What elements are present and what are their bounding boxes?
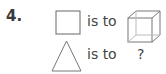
question-number: 4. — [6, 7, 22, 25]
answer-placeholder: ? — [137, 46, 144, 62]
square-icon — [55, 10, 82, 36]
cube-icon — [126, 9, 162, 45]
relation-text-2: is to — [87, 46, 117, 62]
triangle-icon — [51, 40, 83, 73]
relation-text-1: is to — [87, 13, 117, 29]
